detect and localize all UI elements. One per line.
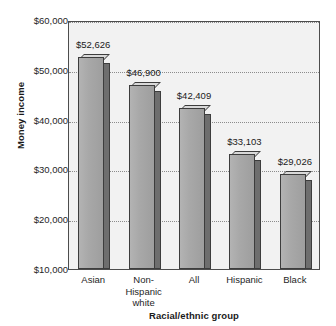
x-axis-tick-label: Black [263, 274, 327, 286]
plot-area [68, 21, 320, 270]
y-axis-tick-label: $50,000 [10, 65, 68, 76]
bar-front-face [179, 108, 205, 269]
y-axis-tick-label: $20,000 [10, 214, 68, 225]
y-axis-tick-label: $30,000 [10, 164, 68, 175]
y-axis-tick-label: $10,000 [10, 264, 68, 275]
bar-value-label: $52,626 [63, 39, 123, 50]
gridline [69, 22, 319, 23]
y-axis-tick-label: $40,000 [10, 115, 68, 126]
x-axis-title: Racial/ethnic group [68, 310, 320, 321]
bar-side-face [205, 114, 211, 269]
bar-front-face [280, 174, 306, 269]
bar-side-face [155, 91, 161, 269]
y-axis-tick-label: $60,000 [10, 15, 68, 26]
bar [179, 108, 205, 269]
bar [129, 85, 155, 269]
bar-side-face [255, 160, 261, 269]
bar [78, 57, 104, 269]
bar-value-label: $42,409 [164, 90, 224, 101]
income-by-race-bar-chart: Money income $10,000$20,000$30,000$40,00… [0, 0, 336, 326]
bar-front-face [78, 57, 104, 269]
bar-front-face [129, 85, 155, 269]
bar-side-face [104, 63, 110, 269]
bar [280, 174, 306, 269]
plot-inner [69, 22, 319, 269]
bar-value-label: $33,103 [214, 136, 274, 147]
bar-value-label: $29,026 [265, 156, 325, 167]
bar-front-face [229, 154, 255, 269]
bar-value-label: $46,900 [114, 67, 174, 78]
bar [229, 154, 255, 269]
bar-side-face [306, 180, 312, 269]
